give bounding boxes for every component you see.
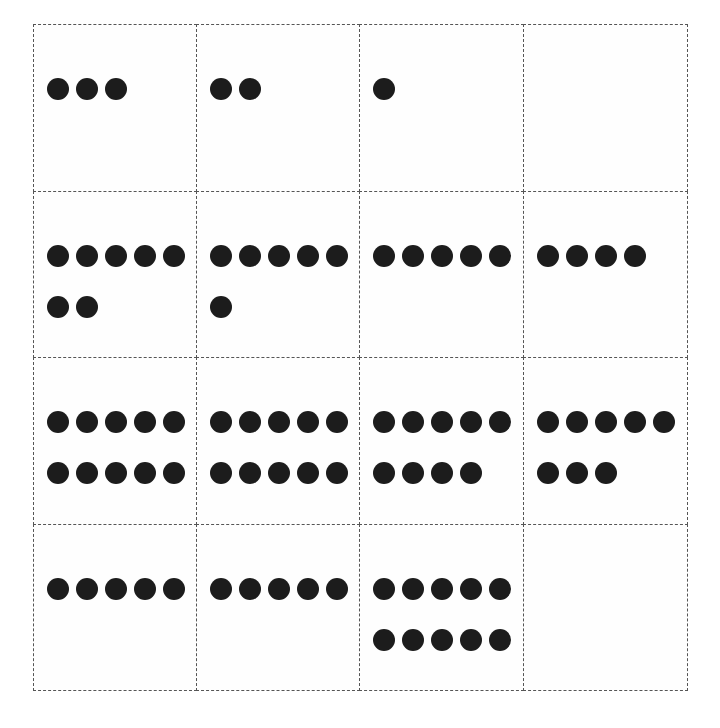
dot-icon: [595, 411, 617, 433]
dot-group: [47, 578, 188, 600]
dot-icon: [163, 245, 185, 267]
grid-cell-r1c3: [359, 24, 524, 192]
dot-icon: [210, 245, 232, 267]
dot-icon: [624, 245, 646, 267]
dot-icon: [326, 411, 348, 433]
dot-icon: [105, 462, 127, 484]
dot-icon: [134, 578, 156, 600]
grid-cell-r3c3: [359, 357, 524, 525]
dot-group: [537, 245, 678, 267]
dot-icon: [402, 462, 424, 484]
dot-icon: [489, 245, 511, 267]
dot-icon: [210, 296, 232, 318]
dot-icon: [489, 411, 511, 433]
dot-icon: [76, 245, 98, 267]
dot-icon: [373, 245, 395, 267]
dot-icon: [489, 629, 511, 651]
dot-icon: [47, 245, 69, 267]
dot-group: [47, 78, 188, 100]
dot-icon: [460, 462, 482, 484]
dot-icon: [105, 78, 127, 100]
dot-icon: [431, 462, 453, 484]
dot-icon: [624, 411, 646, 433]
grid-cell-r1c1: [33, 24, 197, 192]
grid-cell-r2c3: [359, 191, 524, 358]
dot-icon: [431, 245, 453, 267]
dot-icon: [402, 629, 424, 651]
dot-icon: [76, 296, 98, 318]
dot-icon: [163, 462, 185, 484]
dot-icon: [326, 462, 348, 484]
dot-icon: [566, 411, 588, 433]
dot-icon: [210, 411, 232, 433]
dot-icon: [239, 462, 261, 484]
dot-icon: [373, 578, 395, 600]
dot-icon: [431, 578, 453, 600]
dot-icon: [460, 629, 482, 651]
dot-icon: [402, 411, 424, 433]
dot-icon: [373, 462, 395, 484]
dot-icon: [297, 411, 319, 433]
dot-icon: [134, 462, 156, 484]
grid-cell-r2c1: [33, 191, 197, 358]
dot-icon: [47, 411, 69, 433]
dot-icon: [373, 78, 395, 100]
dot-icon: [460, 411, 482, 433]
dot-icon: [297, 578, 319, 600]
dot-icon: [76, 78, 98, 100]
dot-icon: [595, 245, 617, 267]
dot-icon: [105, 578, 127, 600]
dot-grid: [33, 24, 687, 690]
dot-icon: [595, 462, 617, 484]
dot-icon: [566, 462, 588, 484]
dot-group: [47, 245, 188, 318]
dot-icon: [566, 245, 588, 267]
dot-icon: [268, 578, 290, 600]
dot-icon: [268, 245, 290, 267]
dot-icon: [537, 411, 559, 433]
dot-icon: [239, 578, 261, 600]
dot-icon: [239, 411, 261, 433]
dot-icon: [47, 78, 69, 100]
dot-icon: [76, 578, 98, 600]
dot-icon: [431, 629, 453, 651]
dot-group: [210, 78, 351, 100]
dot-icon: [210, 78, 232, 100]
dot-group: [373, 245, 514, 267]
dot-group: [210, 411, 351, 484]
dot-icon: [431, 411, 453, 433]
dot-icon: [134, 411, 156, 433]
dot-icon: [76, 411, 98, 433]
dot-icon: [326, 245, 348, 267]
dot-group: [373, 78, 514, 100]
grid-cell-r4c3: [359, 524, 524, 691]
dot-icon: [105, 411, 127, 433]
dot-icon: [268, 462, 290, 484]
grid-cell-r4c4: [523, 524, 688, 691]
dot-icon: [537, 462, 559, 484]
dot-icon: [47, 462, 69, 484]
dot-icon: [268, 411, 290, 433]
dot-icon: [163, 578, 185, 600]
grid-cell-r1c4: [523, 24, 688, 192]
dot-icon: [297, 462, 319, 484]
dot-icon: [489, 578, 511, 600]
dot-group: [537, 411, 678, 484]
dot-icon: [105, 245, 127, 267]
dot-group: [373, 411, 514, 484]
grid-cell-r3c1: [33, 357, 197, 525]
grid-cell-r3c4: [523, 357, 688, 525]
dot-icon: [373, 411, 395, 433]
dot-icon: [163, 411, 185, 433]
dot-icon: [326, 578, 348, 600]
dot-icon: [537, 245, 559, 267]
grid-cell-r2c2: [196, 191, 360, 358]
dot-group: [47, 411, 188, 484]
dot-icon: [402, 245, 424, 267]
dot-group: [373, 578, 514, 651]
dot-icon: [373, 629, 395, 651]
dot-icon: [76, 462, 98, 484]
grid-cell-r4c2: [196, 524, 360, 691]
dot-icon: [134, 245, 156, 267]
dot-icon: [47, 578, 69, 600]
